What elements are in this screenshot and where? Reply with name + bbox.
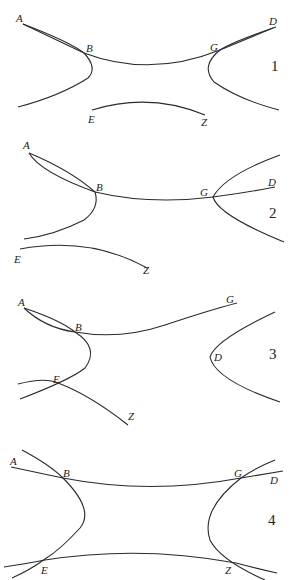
panel-3-line-AB bbox=[24, 308, 75, 332]
panel-2-number: 2 bbox=[269, 205, 277, 221]
panel-3-number: 3 bbox=[269, 346, 277, 362]
panel-4: A B G D E Z 4 bbox=[4, 450, 283, 580]
panel-1-left-hyperbola bbox=[18, 24, 92, 107]
panel-1-label-G: G bbox=[210, 41, 218, 53]
panel-4-label-G: G bbox=[234, 467, 242, 479]
panel-1-line-GD bbox=[220, 28, 273, 50]
panel-2-label-D: D bbox=[267, 176, 276, 188]
panel-2-label-E: E bbox=[13, 253, 21, 265]
panel-1-label-B: B bbox=[86, 42, 93, 54]
panel-1-label-D: D bbox=[268, 15, 277, 27]
panel-4-label-Z: Z bbox=[225, 564, 232, 576]
panel-2-arc-BG-D bbox=[95, 187, 275, 200]
panel-1-label-A: A bbox=[15, 12, 23, 24]
panel-2-right-hyperbola bbox=[213, 155, 284, 242]
panel-2-arc-EZ bbox=[20, 245, 147, 268]
conic-figure: A B G D E Z 1 A B G D E Z 2 A B G D E Z … bbox=[0, 0, 290, 580]
panel-4-label-B: B bbox=[63, 467, 70, 479]
panel-4-label-A: A bbox=[9, 455, 17, 467]
panel-1-right-hyperbola bbox=[208, 27, 279, 110]
panel-4-label-E: E bbox=[40, 564, 48, 576]
panel-1: A B G D E Z 1 bbox=[15, 12, 279, 128]
panel-3: A B G D E Z 3 bbox=[17, 293, 280, 425]
panel-2-label-G: G bbox=[200, 186, 208, 198]
panel-3-arc-BG bbox=[75, 303, 237, 335]
panel-1-number: 1 bbox=[271, 58, 279, 74]
panel-3-label-G: G bbox=[226, 293, 234, 305]
panel-1-arc-BG bbox=[84, 50, 220, 65]
panel-2-label-A: A bbox=[22, 139, 30, 151]
panel-3-label-Z: Z bbox=[128, 410, 135, 422]
panel-3-label-B: B bbox=[75, 321, 82, 333]
panel-1-label-E: E bbox=[87, 113, 95, 125]
panel-2-label-Z: Z bbox=[143, 264, 150, 276]
panel-1-label-Z: Z bbox=[201, 116, 208, 128]
panel-3-label-E: E bbox=[52, 373, 60, 385]
panel-1-line-AB bbox=[23, 24, 84, 53]
panel-2-label-B: B bbox=[96, 181, 103, 193]
panel-3-label-A: A bbox=[17, 296, 25, 308]
panel-4-label-D: D bbox=[269, 474, 278, 486]
panel-2: A B G D E Z 2 bbox=[13, 139, 284, 276]
panel-3-label-D: D bbox=[213, 351, 222, 363]
panel-3-arc-EZ bbox=[18, 380, 128, 425]
panel-2-line-AB bbox=[29, 153, 95, 192]
panel-1-arc-EZ bbox=[92, 102, 205, 115]
panel-2-left-hyperbola bbox=[24, 153, 96, 239]
panel-4-number: 4 bbox=[268, 512, 276, 528]
